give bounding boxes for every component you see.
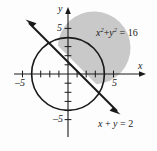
y-axis-label: y bbox=[58, 4, 62, 14]
coordinate-plane-svg bbox=[0, 0, 157, 151]
y-tick-label-neg5: –5 bbox=[53, 114, 63, 124]
line-eq-y: y bbox=[113, 118, 117, 129]
line-eq-plus: + bbox=[105, 118, 111, 129]
circle-equation-label: x2+y2 = 16 bbox=[96, 28, 138, 38]
x-tick-label-pos5: 5 bbox=[112, 78, 117, 88]
line-eq-x: x bbox=[98, 118, 102, 129]
graph-figure: –5 5 5 –5 x y x2+y2 = 16 x + y = 2 bbox=[0, 0, 157, 151]
y-tick-label-pos5: 5 bbox=[57, 23, 62, 33]
line-eq-rhs: = 2 bbox=[120, 118, 133, 129]
x-axis-label: x bbox=[138, 61, 142, 71]
circle-eq-y-exponent: 2 bbox=[114, 26, 117, 33]
circle-eq-rhs: = 16 bbox=[120, 27, 138, 38]
line-equation-label: x + y = 2 bbox=[98, 119, 133, 129]
x-tick-label-neg5: –5 bbox=[15, 78, 25, 88]
